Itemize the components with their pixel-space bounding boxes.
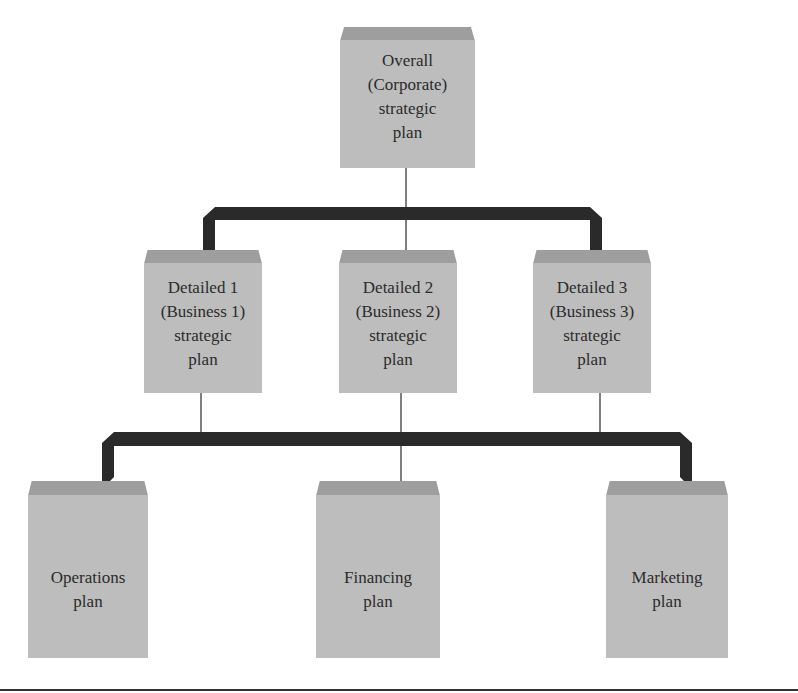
detailed3-strategic-plan-box: Detailed 3 (Business 3) strategic plan (533, 250, 651, 393)
overall-strategic-plan-box: Overall (Corporate) strategic plan (340, 27, 475, 168)
box-label: Overall (Corporate) strategic plan (340, 49, 475, 145)
detailed2-strategic-plan-box: Detailed 2 (Business 2) strategic plan (339, 250, 457, 393)
box-cap (144, 250, 262, 264)
box-cap (28, 481, 148, 496)
box-label: Financing plan (316, 566, 440, 614)
box-label: Marketing plan (606, 566, 728, 614)
box-label: Detailed 2 (Business 2) strategic plan (339, 276, 457, 372)
box-cap (533, 250, 651, 264)
box-cap (606, 481, 728, 496)
detailed1-strategic-plan-box: Detailed 1 (Business 1) strategic plan (144, 250, 262, 393)
marketing-plan-box: Marketing plan (606, 481, 728, 658)
financing-plan-box: Financing plan (316, 481, 440, 658)
box-cap (339, 250, 457, 264)
box-cap (316, 481, 440, 496)
box-label: Operations plan (28, 566, 148, 614)
operations-plan-box: Operations plan (28, 481, 148, 658)
box-cap (340, 27, 475, 41)
box-label: Detailed 1 (Business 1) strategic plan (144, 276, 262, 372)
bottom-rule-divider (0, 689, 798, 691)
box-label: Detailed 3 (Business 3) strategic plan (533, 276, 651, 372)
